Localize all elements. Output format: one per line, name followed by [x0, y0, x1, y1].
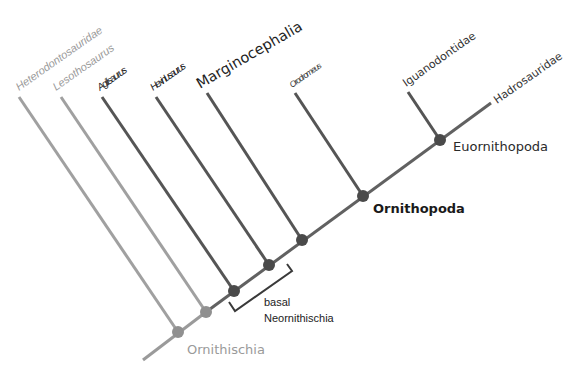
label-ornithischia: Ornithischia [187, 342, 265, 357]
branch-marginocephalia [207, 93, 302, 240]
branch-agilisaurus [102, 97, 234, 291]
branch-iguanodontidae [408, 92, 440, 140]
branch-hexinlusaurus [156, 97, 269, 265]
node-ornithopoda [357, 190, 369, 202]
label-basal: basal [264, 296, 290, 308]
cladogram: Heterodontosauridae Lesothosaurus Agilis… [0, 0, 573, 373]
label-ornithopoda: Ornithopoda [373, 201, 465, 216]
label-neornithischia: Neornithischia [264, 312, 335, 324]
node-neornithischia [228, 285, 240, 297]
branch-orodromeus [295, 93, 363, 196]
label-hadrosauridae: Hadrosauridae [491, 49, 565, 106]
label-hexinlusaurus: Hexinlusaurus [148, 60, 188, 93]
node-ornithischia [172, 326, 184, 338]
node-cerapoda [296, 234, 308, 246]
label-iguanodontidae: Iguanodontidae [400, 29, 478, 89]
branch-heterodontosauridae [19, 97, 178, 332]
label-agilisaurus: Agilisaurus [94, 64, 129, 93]
label-orodromeus: Orodromeus [287, 60, 324, 90]
node-genasauria [200, 306, 212, 318]
node-hexinlusaurus-clade [263, 259, 275, 271]
node-euornithopoda [434, 134, 446, 146]
branch-lesothosaurus [61, 97, 206, 312]
label-euornithopoda: Euornithopoda [453, 139, 548, 154]
